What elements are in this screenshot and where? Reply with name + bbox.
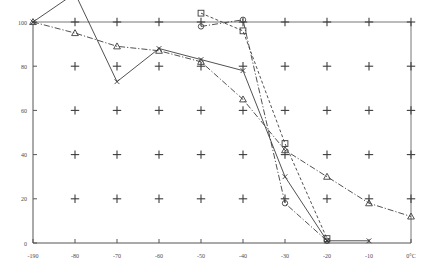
series-line: [33, 22, 411, 216]
grid-plus-marker: [71, 195, 79, 203]
grid-plus-marker: [281, 106, 289, 114]
x-tick-label: 0°C: [406, 253, 415, 259]
x-tick-label: -70: [113, 253, 121, 259]
grid-plus-marker: [113, 62, 121, 70]
y-tick-label: 0: [24, 241, 27, 247]
grid-plus-marker: [281, 62, 289, 70]
series-triangle-dash-dot: [30, 19, 415, 219]
grid-plus-marker: [71, 150, 79, 158]
y-tick-label: 40: [21, 152, 27, 158]
series-x-solid: [325, 238, 372, 243]
axis-tick-labels: -190-80-70-60-50-40-30-20-100°C020406080…: [18, 20, 416, 260]
data-series-group: [30, 0, 415, 243]
grid-plus-marker: [239, 195, 247, 203]
grid-plus-marker: [197, 18, 205, 26]
grid-plus-marker: [407, 150, 415, 158]
grid-plus-marker: [407, 18, 415, 26]
grid-plus-markers: [71, 18, 415, 203]
grid-plus-marker: [323, 150, 331, 158]
x-tick-label: -30: [281, 253, 289, 259]
grid-plus-marker: [71, 18, 79, 26]
data-point-x: [115, 79, 120, 84]
grid-plus-marker: [407, 195, 415, 203]
y-tick-label: 60: [21, 108, 27, 114]
x-tick-label: -80: [71, 253, 79, 259]
grid-plus-marker: [407, 62, 415, 70]
grid-plus-marker: [281, 18, 289, 26]
series-x-solid: [31, 0, 330, 243]
grid-plus-marker: [197, 106, 205, 114]
grid-plus-marker: [71, 106, 79, 114]
grid-plus-marker: [113, 195, 121, 203]
data-point-triangle: [72, 30, 79, 36]
grid-plus-marker: [365, 62, 373, 70]
grid-plus-marker: [407, 106, 415, 114]
axis-ticks: [33, 22, 411, 243]
grid-plus-marker: [323, 18, 331, 26]
plot-border: [33, 22, 411, 243]
grid-plus-marker: [365, 18, 373, 26]
plot-frame: [33, 22, 411, 243]
grid-plus-marker: [155, 106, 163, 114]
x-tick-label: -60: [155, 253, 163, 259]
x-tick-label: -10: [365, 253, 373, 259]
plot-axes: [33, 22, 411, 243]
grid-plus-marker: [365, 195, 373, 203]
y-tick-label: 80: [21, 64, 27, 70]
grid-plus-marker: [239, 62, 247, 70]
y-tick-label: 100: [18, 20, 27, 26]
chart-canvas: -190-80-70-60-50-40-30-20-100°C020406080…: [0, 0, 427, 273]
grid-plus-marker: [197, 150, 205, 158]
chart-container: -190-80-70-60-50-40-30-20-100°C020406080…: [0, 0, 427, 273]
grid-plus-marker: [155, 150, 163, 158]
grid-plus-marker: [323, 62, 331, 70]
grid-plus-marker: [155, 18, 163, 26]
grid-plus-marker: [323, 106, 331, 114]
series-line: [201, 20, 327, 241]
x-tick-label: -40: [239, 253, 247, 259]
grid-plus-marker: [365, 106, 373, 114]
x-tick-label: -50: [197, 253, 205, 259]
grid-plus-marker: [239, 150, 247, 158]
series-line: [201, 13, 327, 238]
x-tick-label: -20: [323, 253, 331, 259]
data-point-square: [282, 141, 288, 147]
grid-plus-marker: [113, 150, 121, 158]
grid-plus-marker: [71, 62, 79, 70]
grid-plus-marker: [155, 195, 163, 203]
grid-plus-marker: [239, 106, 247, 114]
series-square-dashed: [198, 10, 330, 241]
grid-plus-marker: [323, 195, 331, 203]
grid-plus-marker: [113, 106, 121, 114]
series-circle-dash-dot: [198, 17, 329, 243]
grid-plus-marker: [365, 150, 373, 158]
data-point-x: [283, 174, 288, 179]
x-tick-label: -190: [28, 253, 39, 259]
data-point-square: [240, 28, 246, 34]
y-tick-label: 20: [21, 196, 27, 202]
grid-plus-marker: [155, 62, 163, 70]
grid-plus-marker: [197, 195, 205, 203]
grid-plus-marker: [113, 18, 121, 26]
